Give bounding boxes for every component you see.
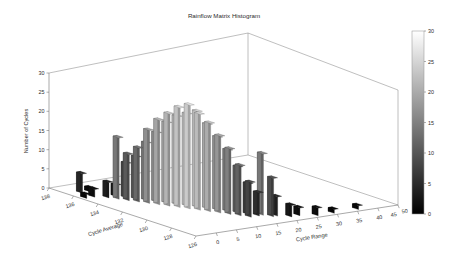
bar-face bbox=[194, 112, 198, 208]
bar-face bbox=[245, 180, 249, 215]
colorbar-tick-20: 20 bbox=[428, 89, 434, 95]
z-tick-20: 20 bbox=[39, 108, 45, 114]
bar-face bbox=[225, 147, 229, 213]
bar-face bbox=[154, 118, 158, 203]
x-tick-10: 10 bbox=[255, 232, 262, 239]
y-tick-136: 136 bbox=[65, 201, 75, 209]
colorbar-tick-0: 0 bbox=[428, 211, 431, 217]
colorbar-tick-30: 30 bbox=[428, 28, 434, 34]
z-axis: 0 5 10 15 20 25 30 Number of Cycles bbox=[23, 70, 49, 191]
x-tick-35: 35 bbox=[356, 217, 363, 224]
bar-face bbox=[123, 152, 127, 199]
bar-face bbox=[144, 128, 148, 201]
colorbar[interactable]: 0 5 10 15 20 25 30 bbox=[412, 28, 434, 217]
z-axis-label: Number of Cycles bbox=[23, 109, 29, 154]
z-tick-10: 10 bbox=[39, 147, 45, 153]
x-tick-45: 45 bbox=[390, 211, 397, 218]
x-tick-5: 5 bbox=[236, 236, 240, 242]
bar-face bbox=[267, 176, 271, 215]
x-tick-40: 40 bbox=[376, 214, 383, 221]
x-tick-50: 50 bbox=[401, 208, 408, 215]
z-tick-25: 25 bbox=[39, 89, 45, 95]
bar-face bbox=[253, 190, 257, 214]
x-tick-30: 30 bbox=[335, 220, 342, 227]
z-tick-30: 30 bbox=[39, 70, 45, 76]
bar-face bbox=[103, 180, 107, 196]
y-tick-126: 126 bbox=[187, 241, 197, 249]
y-tick-134: 134 bbox=[89, 209, 99, 217]
rainflow-3d-histogram-plot[interactable]: Rainflow Matrix Histogram bbox=[0, 0, 449, 265]
z-tick-5: 5 bbox=[42, 166, 45, 172]
colorbar-tick-15: 15 bbox=[428, 120, 434, 126]
bar-face bbox=[174, 105, 178, 205]
colorbar-tick-25: 25 bbox=[428, 59, 434, 65]
bar-face bbox=[184, 103, 188, 207]
x-tick-0: 0 bbox=[216, 239, 220, 245]
colorbar-tick-10: 10 bbox=[428, 150, 434, 156]
x-tick-15: 15 bbox=[275, 229, 282, 236]
x-tick-25: 25 bbox=[315, 223, 322, 230]
colorbar-ticks bbox=[424, 31, 426, 214]
bar-face bbox=[133, 146, 137, 200]
figure-canvas: Rainflow Matrix Histogram bbox=[0, 0, 449, 265]
bar-face bbox=[215, 134, 219, 211]
bar-face bbox=[205, 121, 209, 210]
z-tick-15: 15 bbox=[39, 128, 45, 134]
page-title: Rainflow Matrix Histogram bbox=[188, 12, 260, 19]
bar-face bbox=[113, 135, 117, 197]
bar-face bbox=[235, 163, 239, 213]
y-tick-130: 130 bbox=[138, 225, 148, 233]
y-tick-128: 128 bbox=[163, 233, 173, 241]
z-axis-ticks bbox=[47, 73, 50, 188]
y-axis-label: Cycle Average bbox=[87, 221, 123, 237]
x-axis-label: Cycle Range bbox=[295, 232, 328, 243]
z-tick-0: 0 bbox=[42, 185, 45, 191]
y-tick-138: 138 bbox=[40, 193, 50, 201]
bar-group bbox=[76, 103, 362, 217]
bar-face bbox=[76, 171, 80, 191]
colorbar-tick-5: 5 bbox=[428, 181, 431, 187]
x-tick-20: 20 bbox=[295, 226, 302, 233]
colorbar-gradient bbox=[412, 31, 424, 214]
bar-face bbox=[164, 112, 168, 205]
